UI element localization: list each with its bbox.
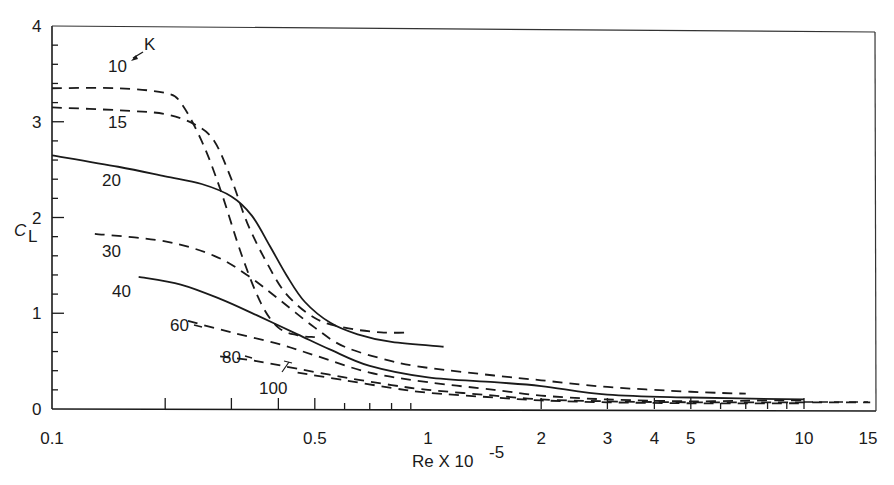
curve-label-80: 80 (222, 348, 241, 367)
data-curves (52, 88, 870, 403)
y-axis-ticks: 01234 (32, 17, 64, 419)
curve-k-30 (95, 234, 746, 394)
curve-k-15 (52, 107, 411, 332)
curve-label-40: 40 (112, 282, 131, 301)
curve-labels: 10152030406080100 (102, 57, 292, 398)
x-axis-title-main: Re X 10 (412, 452, 473, 471)
k-label: K (144, 35, 156, 54)
x-tick-label: 3 (603, 429, 612, 448)
x-tick-label: 0.1 (40, 429, 64, 448)
x-tick-label: 15 (859, 429, 878, 448)
curve-k-40 (139, 277, 804, 400)
y-axis-title-main: C (14, 221, 27, 240)
curve-label-10: 10 (108, 57, 127, 76)
y-tick-label: 0 (32, 400, 41, 419)
y-axis-title-subscript: L (28, 227, 37, 246)
x-tick-label: 4 (650, 429, 659, 448)
curve-label-15: 15 (108, 113, 127, 132)
curve-label-100: 100 (259, 379, 287, 398)
lift-coefficient-chart: 01234 0.10.5123451015 10152030406080100 … (0, 0, 894, 485)
curve-label-30: 30 (102, 242, 121, 261)
leader-60 (194, 325, 202, 327)
y-tick-label: 3 (32, 113, 41, 132)
curve-label-60: 60 (170, 316, 189, 335)
x-tick-label: 10 (795, 429, 814, 448)
curve-k-10 (52, 88, 315, 337)
y-tick-label: 4 (32, 17, 41, 36)
plot-frame (52, 26, 876, 411)
y-tick-label: 2 (32, 209, 41, 228)
x-axis-ticks: 0.10.5123451015 (40, 398, 877, 448)
curve-label-20: 20 (102, 171, 121, 190)
x-tick-label: 1 (423, 429, 432, 448)
x-tick-label: 0.5 (303, 429, 327, 448)
x-tick-label: 5 (686, 429, 695, 448)
x-tick-label: 2 (536, 429, 545, 448)
x-axis-title-exponent: -5 (489, 443, 504, 462)
y-tick-label: 1 (32, 304, 41, 323)
k-annotation: K (131, 35, 156, 61)
leader-80 (245, 356, 252, 358)
